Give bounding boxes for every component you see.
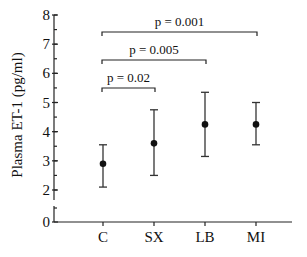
data-point: [202, 121, 209, 128]
data-point: [100, 160, 107, 167]
y-tick-label: 3: [43, 153, 51, 169]
y-tick-label: 2: [43, 182, 51, 198]
bracket-line: [102, 88, 155, 92]
bracket-line: [102, 32, 257, 36]
y-axis: 02345678: [43, 7, 59, 230]
y-tick-label: 8: [43, 7, 51, 23]
data-point-group: [252, 103, 260, 145]
x-tick-label: LB: [195, 229, 214, 245]
x-axis: CSXLBMI: [54, 222, 292, 245]
data-point: [253, 121, 260, 128]
significance-bracket: p = 0.001: [102, 14, 257, 36]
y-tick-label: 7: [43, 36, 51, 52]
p-value-label: p = 0.02: [107, 70, 150, 85]
bracket-line: [102, 60, 206, 64]
y-axis-title: Plasma ET-1 (pg/ml): [9, 52, 26, 177]
x-tick-label: MI: [247, 229, 265, 245]
y-tick-label: 6: [43, 65, 51, 81]
data-point-group: [99, 145, 107, 187]
y-tick-label: 5: [43, 95, 51, 111]
y-tick-label: 0: [43, 214, 51, 230]
data-point-group: [201, 92, 209, 156]
significance-brackets: p = 0.001p = 0.005p = 0.02: [102, 14, 257, 92]
y-tick-label: 4: [43, 124, 51, 140]
data-point-group: [150, 110, 158, 176]
data-points: [99, 92, 260, 187]
significance-bracket: p = 0.02: [102, 70, 155, 92]
x-tick-label: C: [98, 229, 108, 245]
x-tick-label: SX: [144, 229, 163, 245]
significance-bracket: p = 0.005: [102, 42, 206, 64]
p-value-label: p = 0.001: [155, 14, 205, 29]
chart: 02345678 CSXLBMI Plasma ET-1 (pg/ml) p =…: [0, 0, 307, 257]
p-value-label: p = 0.005: [129, 42, 179, 57]
data-point: [151, 140, 158, 147]
